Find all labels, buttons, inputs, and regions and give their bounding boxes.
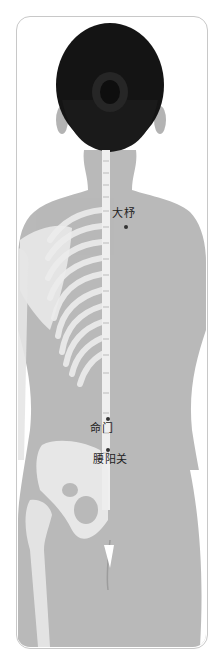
acupoint-dot-mingmen	[106, 417, 110, 421]
acupoint-label-yaoyangguan: 腰阳关	[93, 454, 128, 466]
body-back-view-illustration	[0, 0, 224, 664]
acupoint-label-mingmen: 命门	[90, 423, 113, 435]
acupoint-dot-dazhu	[124, 225, 128, 229]
acupoint-label-dazhu: 大杼	[112, 208, 135, 220]
acupoint-dot-yaoyangguan	[106, 448, 110, 452]
body-silhouette	[18, 150, 206, 647]
